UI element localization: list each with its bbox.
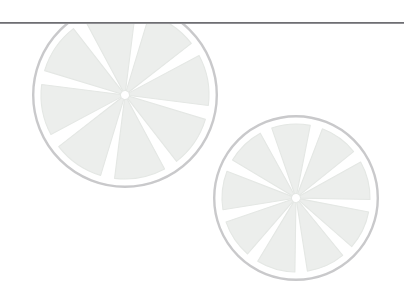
citrus-slice-small (214, 116, 378, 280)
citrus-slice-large (33, 3, 217, 187)
citrus-illustration-layer (0, 0, 404, 299)
top-margin-mask (0, 0, 404, 22)
citrus-illustration-svg (0, 0, 404, 299)
horizontal-rule-divider (0, 22, 404, 24)
page-canvas (0, 0, 404, 299)
